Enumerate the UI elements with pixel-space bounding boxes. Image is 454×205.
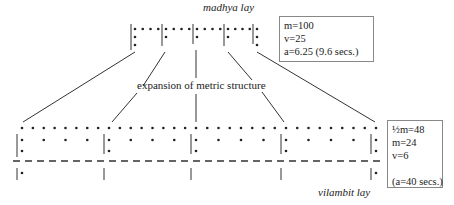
param-a: (a=40 secs.) — [392, 175, 438, 188]
vilambit-lay-label: vilambit lay — [318, 186, 370, 198]
spacer — [392, 162, 438, 175]
metric-diagram — [0, 0, 454, 205]
param-m: m=24 — [392, 136, 438, 149]
param-v: v=6 — [392, 149, 438, 162]
madhya-params-box: m=100 v=25 a=6.25 (9.6 secs.) — [279, 16, 374, 62]
expansion-label: expansion of metric structure — [137, 79, 266, 91]
param-v: v=25 — [284, 32, 369, 45]
vilambit-params-box: ½m=48 m=24 v=6 (a=40 secs.) — [387, 120, 443, 188]
param-a: a=6.25 (9.6 secs.) — [284, 45, 369, 58]
madhya-lay-label: madhya lay — [203, 1, 254, 13]
param-half-m: ½m=48 — [392, 123, 438, 136]
param-m: m=100 — [284, 19, 369, 32]
